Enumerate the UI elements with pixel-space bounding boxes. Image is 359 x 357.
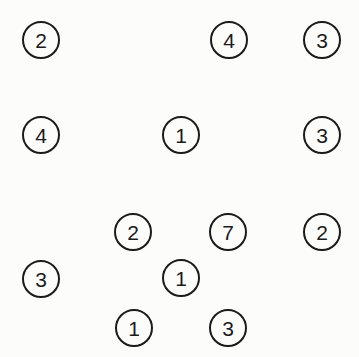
circle-label: 3 bbox=[316, 29, 328, 50]
numbered-circle-3[interactable]: 3 bbox=[22, 260, 60, 298]
circle-label: 2 bbox=[316, 221, 328, 242]
numbered-circle-2[interactable]: 2 bbox=[114, 213, 152, 251]
numbered-circle-2[interactable]: 2 bbox=[22, 21, 60, 59]
circle-label: 2 bbox=[127, 221, 139, 242]
numbered-circle-2[interactable]: 2 bbox=[303, 213, 341, 251]
numbered-circle-1[interactable]: 1 bbox=[162, 116, 200, 154]
numbered-circle-1[interactable]: 1 bbox=[162, 259, 200, 297]
numbered-circle-4[interactable]: 4 bbox=[210, 21, 248, 59]
circle-label: 7 bbox=[222, 221, 234, 242]
numbered-circle-3[interactable]: 3 bbox=[209, 309, 247, 347]
circle-label: 2 bbox=[35, 29, 47, 50]
circle-label: 4 bbox=[223, 29, 235, 50]
numbered-circle-3[interactable]: 3 bbox=[303, 116, 341, 154]
numbered-circle-7[interactable]: 7 bbox=[209, 213, 247, 251]
circle-label: 1 bbox=[128, 317, 140, 338]
diagram-canvas: 2434132723113 bbox=[0, 0, 359, 357]
circle-label: 3 bbox=[316, 124, 328, 145]
numbered-circle-3[interactable]: 3 bbox=[303, 21, 341, 59]
circle-label: 1 bbox=[175, 267, 187, 288]
numbered-circle-4[interactable]: 4 bbox=[22, 116, 60, 154]
circle-label: 3 bbox=[35, 268, 47, 289]
circle-label: 1 bbox=[175, 124, 187, 145]
circle-label: 4 bbox=[35, 124, 47, 145]
circle-label: 3 bbox=[222, 317, 234, 338]
numbered-circle-1[interactable]: 1 bbox=[115, 309, 153, 347]
